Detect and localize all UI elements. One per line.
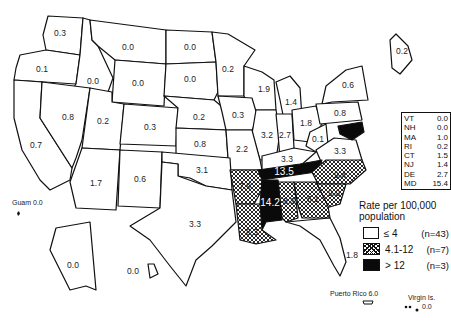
state-fl [286,218,346,276]
puerto-rico-label: Puerto Rico 6.0 [330,290,378,297]
ne-table-row: MA1.0 [404,133,448,142]
guam-label: Guam 0.0 [12,199,43,206]
ne-table-row: MD15.4 [404,179,448,188]
state-value-ga: 5.1 [307,194,319,204]
state-value-ar: 7.9 [239,181,251,191]
legend-count: (n=3) [427,260,449,271]
virgin-islands-shape [405,306,419,312]
state-value-sc: 9.0 [328,188,340,198]
state-value-nv: 0.8 [62,112,74,122]
ne-state-abbr: VT [404,114,414,123]
northeast-states-table: VT0.0NH0.0MA1.0RI0.2CT1.5NJ1.4DE2.7MD15.… [401,112,451,190]
state-value-or: 0.1 [36,64,48,74]
legend: Rate per 100,000 population ≤ 4(n=43)4.1… [359,200,449,274]
state-value-ia: 0.3 [232,110,244,120]
state-value-nm: 0.6 [134,174,146,184]
ne-state-abbr: MA [404,133,416,142]
state-value-ca: 0.7 [30,140,42,150]
state-value-mi: 1.4 [285,97,297,107]
legend-item-high: > 12(n=3) [359,258,449,272]
state-value-mo: 2.2 [236,144,248,154]
state-value-wi: 1.9 [258,84,270,94]
state-value-al: 8.2 [283,196,295,206]
state-value-ky: 3.3 [281,154,293,164]
state-ak [50,222,96,290]
state-value-ak: 0.0 [67,260,79,270]
legend-range: > 12 [385,260,426,271]
ne-state-abbr: RI [404,142,412,151]
virgin-islands-value: 0.0 [422,303,432,310]
ne-state-abbr: MD [404,179,416,188]
state-value-ny: 0.6 [342,80,354,90]
ne-state-value: 1.5 [437,151,448,160]
legend-title: Rate per 100,000 population [359,200,449,222]
ne-state-value: 2.7 [437,170,448,179]
legend-swatch-low [363,227,379,239]
state-value-co: 0.3 [144,122,156,132]
ne-table-row: CT1.5 [404,151,448,160]
state-value-pa: 0.8 [334,108,346,118]
ne-table-row: NH0.0 [404,123,448,132]
state-value-tx: 3.3 [189,219,201,229]
state-value-hi: 0.0 [127,266,139,276]
ne-state-value: 1.0 [437,133,448,142]
state-value-nd: 0.0 [184,42,196,52]
puerto-rico-shape [363,301,373,304]
state-value-la: 8.3 [246,227,258,237]
state-hi [148,264,158,278]
ne-state-abbr: NJ [404,160,414,169]
state-value-nc: 9.4 [334,170,346,180]
ne-table-row: VT0.0 [404,114,448,123]
ne-table-row: DE2.7 [404,170,448,179]
legend-swatch-high [363,259,380,271]
state-value-in: 2.7 [279,130,291,140]
state-value-me: 0.2 [396,46,408,56]
ne-state-abbr: DE [404,170,415,179]
state-value-wv: 0.1 [312,134,324,144]
virgin-islands-label: Virgin Is. [408,294,435,302]
state-value-va: 3.3 [334,146,346,156]
legend-count: (n=7) [427,244,449,255]
state-value-fl: 1.8 [346,250,358,260]
legend-item-low: ≤ 4(n=43) [359,226,449,240]
legend-swatch-mid [363,243,380,255]
guam-island-shape [17,211,20,216]
state-value-ut: 0.2 [97,116,109,126]
state-value-oh: 1.8 [300,118,312,128]
ne-state-value: 0.0 [437,123,448,132]
state-value-ms: 14.2 [260,197,280,208]
state-value-ks: 0.8 [194,139,206,149]
state-value-ne: 0.2 [193,112,205,122]
state-value-az: 1.7 [90,178,102,188]
ne-table-row: NJ1.4 [404,160,448,169]
legend-range: ≤ 4 [384,228,422,239]
state-value-wy: 0.0 [132,78,144,88]
state-value-mn: 0.2 [222,64,234,74]
legend-range: 4.1-12 [385,244,426,255]
state-value-il: 3.2 [261,130,273,140]
ne-table-row: RI0.2 [404,142,448,151]
state-value-tn: 13.5 [274,166,294,177]
state-md [338,122,364,140]
state-value-sd: 0.0 [184,74,196,84]
ne-state-abbr: NH [404,123,416,132]
ne-state-abbr: CT [404,151,415,160]
legend-count: (n=43) [421,228,449,239]
legend-item-mid: 4.1-12(n=7) [359,242,449,256]
state-value-mt: 0.0 [122,42,134,52]
state-value-id: 0.0 [87,76,99,86]
state-value-ok: 3.1 [196,165,208,175]
ne-state-value: 0.2 [437,142,448,151]
ne-state-value: 0.0 [437,114,448,123]
ne-state-value: 15.4 [432,179,448,188]
state-value-wa: 0.3 [54,28,66,38]
ne-state-value: 1.4 [437,160,448,169]
